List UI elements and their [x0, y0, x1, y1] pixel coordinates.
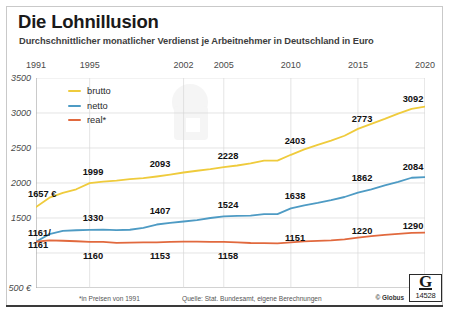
data-label-real-2010: 1151 [285, 233, 305, 243]
page-title: Die Lohnillusion [18, 11, 159, 33]
copyright-text: © Globus [376, 294, 405, 301]
data-label-real-2020: 1290 [403, 221, 424, 231]
x-tick-2010: 2010 [281, 60, 301, 70]
x-tick-1995: 1995 [80, 60, 100, 70]
page-subtitle: Durchschnittlicher monatlicher Verdienst… [19, 36, 374, 46]
legend-swatch-real [68, 119, 81, 121]
data-label-netto-2020: 2084 [403, 162, 424, 172]
y-tick-3000: 3000 [11, 108, 31, 118]
y-tick-500: 500 € [8, 283, 31, 293]
legend-label-real: real* [87, 115, 106, 125]
x-tick-2005: 2005 [214, 60, 234, 70]
chart-legend: brutto netto real* [68, 84, 111, 128]
data-label-brutto-2015: 2773 [352, 114, 373, 124]
data-label-netto-2005: 1524 [218, 200, 239, 210]
data-label-brutto-1991: 1657 € [28, 189, 56, 199]
data-label-real-2015: 1220 [352, 226, 373, 236]
y-tick-3500: 3500 [11, 73, 31, 83]
legend-item-netto: netto [68, 99, 111, 114]
data-label-netto-1991: 1161 [28, 240, 48, 250]
legend-item-brutto: brutto [68, 84, 111, 99]
y-tick-1500: 1500 [11, 213, 31, 223]
data-label-brutto-2020: 3092 [403, 94, 424, 104]
data-label-brutto-2010: 2403 [285, 136, 306, 146]
legend-swatch-brutto [68, 90, 81, 92]
data-label-brutto-2002: 2093 [150, 159, 171, 169]
footnote-note: *in Preisen von 1991 [79, 295, 140, 302]
x-tick-2002: 2002 [174, 60, 194, 70]
legend-item-real: real* [68, 113, 111, 128]
legend-label-netto: netto [87, 101, 108, 111]
infographic-root: Die Lohnillusion Durchschnittlicher mona… [0, 0, 450, 315]
data-label-real-2002: 1153 [150, 251, 170, 261]
globus-underline [419, 288, 432, 290]
data-label-netto-1995: 1330 [83, 213, 104, 223]
y-tick-2500: 2500 [11, 143, 31, 153]
footnote-source: Quelle: Stat. Bundesamt, eigene Berechnu… [182, 295, 322, 302]
data-label-real-2005: 1158 [218, 251, 238, 261]
legend-swatch-netto [68, 105, 81, 107]
x-tick-2015: 2015 [348, 60, 368, 70]
data-label-netto-2010: 1638 [285, 191, 306, 201]
x-tick-1991: 1991 [26, 60, 46, 70]
legend-label-brutto: brutto [87, 86, 111, 96]
x-tick-2020: 2020 [415, 60, 435, 70]
y-tick-2000: 2000 [11, 178, 31, 188]
data-label-netto-2002: 1407 [150, 206, 171, 216]
data-label-real-1995: 1160 [83, 251, 103, 261]
data-label-brutto-1995: 1999 [83, 167, 104, 177]
data-label-brutto-2005: 2228 [218, 151, 239, 161]
globus-number: 14528 [415, 291, 435, 300]
bottom-rule [6, 305, 443, 307]
data-label-netto-2015: 1862 [352, 173, 373, 183]
globus-logo: G 14528 [409, 274, 442, 302]
data-label-netto-1991: 1161/ [28, 228, 51, 238]
